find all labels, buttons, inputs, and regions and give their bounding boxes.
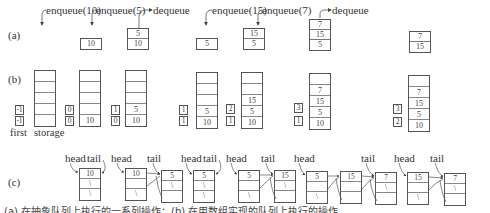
linked-list-pointers <box>0 0 490 213</box>
figure-caption: (a) 在抽象队列上执行的一系列操作；(b) 在用数组实现的队列上执行的操作 <box>4 203 338 213</box>
